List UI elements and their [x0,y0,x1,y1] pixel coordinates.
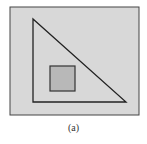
figure-caption: (a) [0,122,147,133]
outer-rectangle [10,7,139,115]
inner-square [50,66,75,91]
